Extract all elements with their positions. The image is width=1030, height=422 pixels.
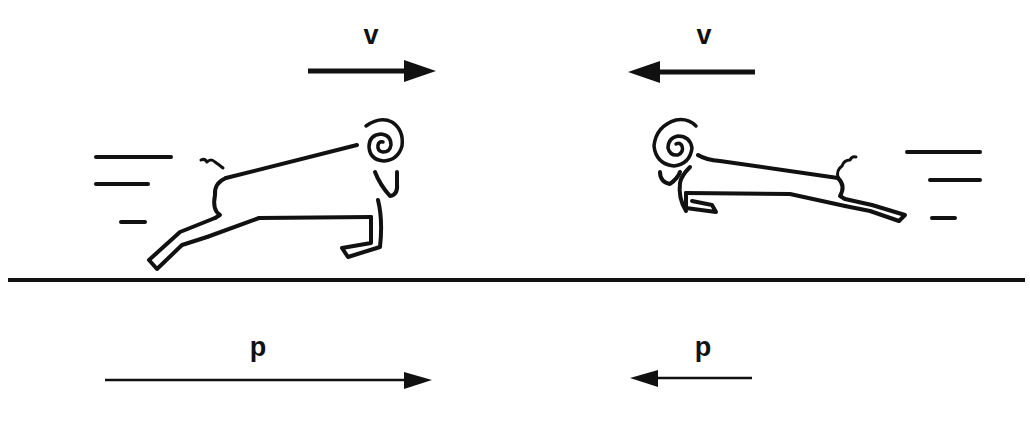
momentum-arrow-right	[105, 372, 432, 389]
velocity-label-left: v	[363, 22, 378, 49]
velocity-label-right: v	[696, 22, 711, 49]
momentum-label-right: p	[695, 334, 712, 361]
collision-diagram	[0, 0, 1030, 422]
velocity-arrow-left	[628, 61, 755, 83]
momentum-arrow-left	[630, 370, 752, 387]
ram-left-figure	[96, 120, 402, 269]
velocity-arrow-right	[308, 60, 436, 82]
momentum-label-left: p	[250, 334, 267, 361]
ram-right-figure	[654, 120, 980, 221]
